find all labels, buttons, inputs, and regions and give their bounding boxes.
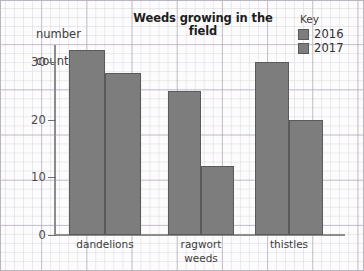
- legend-label-2016: 2016: [314, 29, 344, 41]
- legend: Key 2016 2017: [298, 14, 360, 58]
- bar-ragwort-2016: [168, 91, 201, 235]
- x-category-label-dandelions: dandelions: [65, 239, 145, 250]
- bar-chart-screenshot: Weeds growing in the field number counte…: [0, 0, 364, 271]
- legend-title: Key: [300, 14, 360, 25]
- y-tick-mark-30: [48, 62, 56, 63]
- legend-item-2017: 2017: [298, 43, 360, 55]
- legend-label-2017: 2017: [314, 43, 344, 55]
- y-axis-title-line1: number: [36, 28, 83, 42]
- bar-ragwort-2017: [201, 166, 234, 235]
- y-tick-mark-10: [48, 177, 56, 178]
- y-tick-mark-20: [48, 120, 56, 121]
- x-category-label-thistles: thistles: [249, 239, 329, 250]
- legend-item-2016: 2016: [298, 29, 360, 41]
- x-axis-title: weeds: [161, 253, 241, 264]
- bar-thistles-2017: [289, 120, 323, 235]
- bar-dandelions-2016: [69, 50, 105, 235]
- y-tick-mark-0: [48, 235, 56, 236]
- y-tick-label-20: 20: [18, 115, 46, 127]
- legend-swatch-icon-2016: [298, 29, 309, 40]
- plot-area: Weeds growing in the field number counte…: [0, 0, 364, 271]
- x-category-label-ragwort: ragwort: [161, 239, 241, 250]
- y-axis-line: [54, 45, 56, 236]
- bar-dandelions-2017: [105, 73, 141, 235]
- y-tick-label-30: 30: [18, 57, 46, 69]
- bar-thistles-2016: [255, 62, 289, 235]
- chart-title: Weeds growing in the field: [118, 12, 288, 37]
- y-tick-label-0: 0: [18, 230, 46, 242]
- y-tick-label-10: 10: [18, 172, 46, 184]
- legend-swatch-icon-2017: [298, 43, 309, 54]
